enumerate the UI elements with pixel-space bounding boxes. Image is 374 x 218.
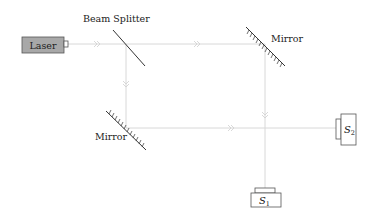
mirror-bottom-left: Mirror bbox=[95, 110, 146, 150]
beam-splitter: Beam Splitter bbox=[83, 13, 150, 66]
beam-direction-markers bbox=[94, 41, 268, 131]
mirror-label: Mirror bbox=[271, 33, 304, 44]
interferometer-diagram: Laser Beam Splitter Mirror Mirror bbox=[0, 0, 374, 218]
detector-s1: S1 bbox=[251, 188, 281, 208]
detector-s2: S2 bbox=[336, 114, 356, 145]
laser: Laser bbox=[22, 37, 68, 53]
beam-splitter-label: Beam Splitter bbox=[83, 13, 150, 24]
laser-label: Laser bbox=[29, 40, 56, 51]
mirror-label: Mirror bbox=[95, 131, 128, 142]
mirror-top-right: Mirror bbox=[246, 27, 304, 67]
light-beams bbox=[68, 44, 336, 188]
